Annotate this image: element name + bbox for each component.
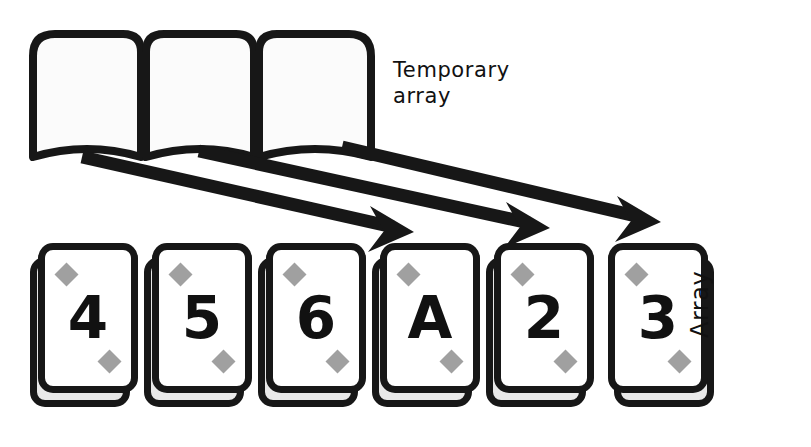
- diamond-pip-icon: [553, 349, 577, 373]
- temporary-array: [28, 28, 380, 168]
- card-face-3: A: [380, 243, 480, 393]
- temp-array-cell-1[interactable]: [146, 34, 254, 157]
- diagram-canvas: Temporary array 4: [0, 0, 811, 447]
- diamond-pip-icon: [54, 262, 78, 286]
- transfer-arrow-0: [82, 157, 414, 252]
- card-rank-label: A: [387, 289, 473, 347]
- diamond-pip-icon: [396, 262, 420, 286]
- card-rank-label: 5: [159, 289, 245, 347]
- card-face-4: 2: [494, 243, 594, 393]
- card-rank-label: 4: [45, 289, 131, 347]
- diamond-pip-icon: [624, 262, 648, 286]
- array-label: Array: [686, 198, 714, 338]
- diamond-pip-icon: [667, 349, 691, 373]
- card-face-1: 5: [152, 243, 252, 393]
- diamond-pip-icon: [97, 349, 121, 373]
- array-card-1[interactable]: 5: [144, 243, 258, 408]
- diamond-pip-icon: [168, 262, 192, 286]
- card-rank-label: 2: [501, 289, 587, 347]
- temp-array-cell-2[interactable]: [259, 34, 371, 157]
- diamond-pip-icon: [510, 262, 534, 286]
- array-card-2[interactable]: 6: [258, 243, 372, 408]
- card-face-0: 4: [38, 243, 138, 393]
- diamond-pip-icon: [211, 349, 235, 373]
- temporary-array-label: Temporary array: [393, 57, 510, 110]
- card-face-2: 6: [266, 243, 366, 393]
- array-card-3[interactable]: A: [372, 243, 486, 408]
- card-rank-label: 6: [273, 289, 359, 347]
- array-card-0[interactable]: 4: [30, 243, 144, 408]
- diamond-pip-icon: [439, 349, 463, 373]
- transfer-arrow-2: [342, 147, 661, 242]
- temporary-array-cells: [28, 28, 380, 168]
- array-card-row: 4 5 6 A: [30, 243, 730, 408]
- diamond-pip-icon: [282, 262, 306, 286]
- temp-array-cell-0[interactable]: [33, 34, 141, 157]
- diamond-pip-icon: [325, 349, 349, 373]
- array-card-4[interactable]: 2: [486, 243, 600, 408]
